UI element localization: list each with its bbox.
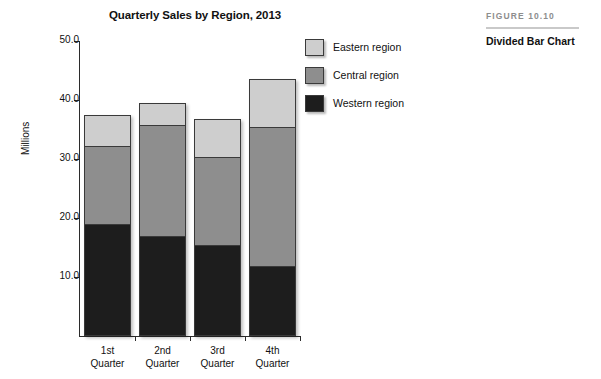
bar-segment[interactable] (194, 119, 241, 157)
bar-segment[interactable] (139, 236, 186, 336)
bar-segment[interactable] (249, 79, 296, 126)
chart-legend: Eastern regionCentral regionWestern regi… (305, 36, 404, 120)
y-axis-tick-label: 50.0 (45, 34, 79, 45)
x-axis-category-line: Quarter (78, 357, 138, 370)
figure-page: Quarterly Sales by Region, 2013 Millions… (0, 0, 601, 379)
legend-swatch (305, 39, 324, 56)
x-axis-category-label: 2ndQuarter (133, 344, 193, 370)
x-axis-category-line: Quarter (188, 357, 248, 370)
legend-item[interactable]: Central region (305, 64, 404, 86)
legend-label: Eastern region (333, 41, 401, 53)
x-axis-category-line: 4th (243, 344, 303, 357)
legend-swatch (305, 95, 324, 112)
figure-caption-panel: FIGURE 10.10 Divided Bar Chart (486, 0, 601, 379)
bar-stack[interactable] (194, 119, 241, 336)
bar-segment[interactable] (139, 125, 186, 236)
y-axis-line (79, 41, 80, 337)
y-axis-title: Millions (20, 122, 31, 155)
legend-item[interactable]: Western region (305, 92, 404, 114)
x-axis-category-line: 2nd (133, 344, 193, 357)
y-axis-tick-label-wrap: 40.0 (30, 100, 79, 101)
legend-label: Central region (333, 69, 399, 81)
bar-segment[interactable] (249, 127, 296, 267)
bar-segment[interactable] (84, 115, 131, 146)
x-axis-category-label: 1stQuarter (78, 344, 138, 370)
y-axis-tick-label-wrap: 50.0 (30, 41, 79, 42)
y-axis-tick-label-wrap: 20.0 (30, 218, 79, 219)
figure-number: FIGURE 10.10 (486, 11, 555, 21)
bar-segment[interactable] (139, 103, 186, 125)
x-axis-category-line: Quarter (133, 357, 193, 370)
y-axis-tick-label: 20.0 (45, 211, 79, 222)
y-axis-tick-label: 40.0 (45, 93, 79, 104)
y-axis-tick-label: 10.0 (45, 270, 79, 281)
bar-segment[interactable] (194, 245, 241, 336)
x-axis-category-label: 3rdQuarter (188, 344, 248, 370)
bar-segment[interactable] (194, 157, 241, 245)
legend-label: Western region (333, 97, 404, 109)
bar-stack[interactable] (249, 79, 296, 336)
x-axis-tick (300, 336, 301, 341)
y-axis-tick-label-wrap: 30.0 (30, 159, 79, 160)
x-axis-tick (190, 336, 191, 341)
y-axis-tick-label: 30.0 (45, 152, 79, 163)
y-axis-tick-label-wrap: 10.0 (30, 277, 79, 278)
bar-segment[interactable] (84, 224, 131, 336)
bar-segment[interactable] (249, 266, 296, 336)
x-axis-category-line: Quarter (243, 357, 303, 370)
bar-stack[interactable] (139, 103, 186, 336)
legend-item[interactable]: Eastern region (305, 36, 404, 58)
bar-segment[interactable] (84, 146, 131, 224)
x-axis-category-line: 1st (78, 344, 138, 357)
x-axis-category-label: 4thQuarter (243, 344, 303, 370)
caption-divider (486, 27, 579, 29)
x-axis-tick (135, 336, 136, 341)
bar-stack[interactable] (84, 115, 131, 336)
chart-panel: Quarterly Sales by Region, 2013 Millions… (0, 0, 450, 379)
x-axis-tick (245, 336, 246, 341)
x-axis-category-line: 3rd (188, 344, 248, 357)
figure-caption-title: Divided Bar Chart (486, 35, 575, 47)
legend-swatch (305, 67, 324, 84)
